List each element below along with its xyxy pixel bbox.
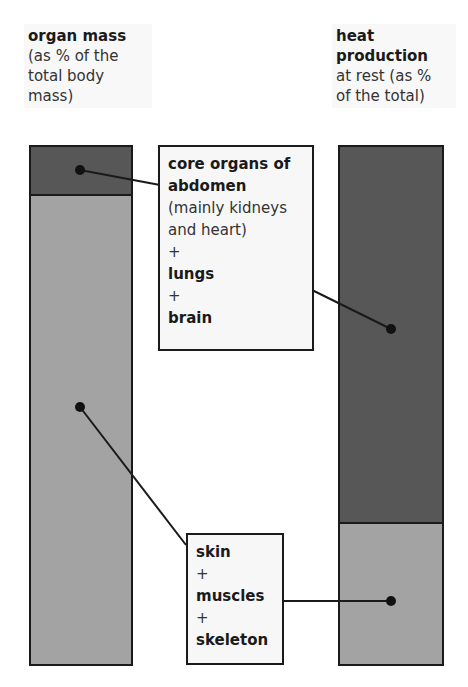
dot-marker: [386, 324, 396, 334]
label-line: brain: [168, 307, 304, 329]
label-line: +: [168, 285, 304, 307]
dot-marker: [75, 165, 85, 175]
label-line: skin: [196, 541, 274, 563]
label-line: skeleton: [196, 629, 274, 651]
label-line: muscles: [196, 585, 274, 607]
dot-marker: [75, 402, 85, 412]
label-line: and heart): [168, 219, 304, 241]
label-line: abdomen: [168, 175, 304, 197]
label-line: lungs: [168, 263, 304, 285]
core-organs-label-box: core organs of abdomen (mainly kidneys a…: [158, 145, 314, 351]
label-line: +: [196, 563, 274, 585]
label-line: core organs of: [168, 153, 304, 175]
rest-label-box: skin + muscles + skeleton: [186, 533, 284, 665]
label-line: +: [196, 607, 274, 629]
label-line: +: [168, 241, 304, 263]
label-line: (mainly kidneys: [168, 197, 304, 219]
dot-marker: [386, 596, 396, 606]
